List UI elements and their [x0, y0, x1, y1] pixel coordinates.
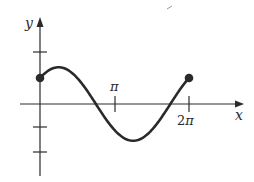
x-tick-label-2pi-pi: π [185, 113, 194, 128]
y-axis-label: y [25, 16, 33, 30]
x-tick-label-2pi: 2π [177, 114, 194, 127]
start-point-marker [36, 74, 45, 83]
end-point-marker [185, 74, 194, 83]
y-axis-arrow-icon [37, 17, 44, 27]
x-axis-label: x [235, 108, 243, 122]
x-tick-label-pi: π [110, 80, 119, 93]
stray-mark [167, 6, 172, 9]
function-graph [0, 0, 254, 182]
